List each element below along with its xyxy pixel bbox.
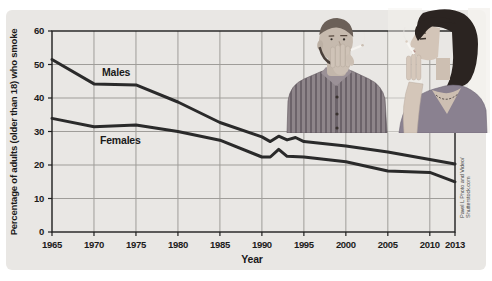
woman-eye	[420, 39, 426, 40]
smoke-wisp	[363, 32, 365, 44]
photo-credit-line2: Shutterstock.com	[465, 128, 471, 218]
x-axis-title: Year	[226, 253, 278, 265]
figure-smoking-trends: 1965197019751980198519901995200020052010…	[0, 0, 492, 281]
females-series-label: Females	[100, 134, 141, 146]
smokers-photo	[0, 0, 492, 281]
y-axis-title: Percentage of adults (older than 18) who…	[8, 27, 24, 237]
man-cigarette-icon	[351, 46, 362, 51]
males-series-label: Males	[102, 66, 130, 78]
man-smoking-figure	[287, 17, 387, 133]
woman-neck	[436, 58, 450, 80]
man-shirt-placket	[336, 86, 338, 133]
woman-hand	[407, 54, 421, 80]
photo-credit: Pavel L Photo and Video/ Shutterstock.co…	[459, 128, 472, 218]
